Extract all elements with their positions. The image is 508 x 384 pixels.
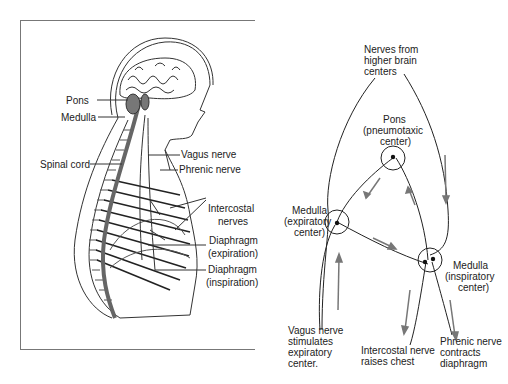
label-intercostal: Intercostal bbox=[208, 203, 254, 215]
label-diaphragm-insp: Diaphragm bbox=[208, 264, 257, 276]
label-intercostal-r-2: raises chest bbox=[361, 356, 414, 368]
label-intercostal-2: nerves bbox=[218, 216, 248, 228]
label-spinal-cord: Spinal cord bbox=[40, 159, 90, 171]
spinal-cord bbox=[103, 100, 140, 318]
label-pons-r-3: center) bbox=[380, 136, 411, 148]
label-phrenic-nerve: Phrenic nerve bbox=[179, 164, 241, 176]
label-pons: Pons bbox=[66, 95, 89, 107]
label-med-exp-3: center) bbox=[294, 227, 325, 239]
label-vagus-nerve: Vagus nerve bbox=[181, 149, 236, 161]
label-phrenic-r-3: diaphragm bbox=[440, 358, 487, 370]
label-med-insp-3: center) bbox=[458, 282, 489, 294]
label-vagus-r-4: center. bbox=[288, 358, 318, 370]
anatomy-illustration bbox=[0, 0, 508, 384]
label-medulla: Medulla bbox=[61, 112, 96, 124]
label-higher-3: centers bbox=[364, 66, 397, 78]
label-diaphragm-exp-2: (expiration) bbox=[208, 248, 258, 260]
label-diaphragm-exp: Diaphragm bbox=[209, 235, 258, 247]
label-diaphragm-insp-2: (inspiration) bbox=[206, 277, 258, 289]
